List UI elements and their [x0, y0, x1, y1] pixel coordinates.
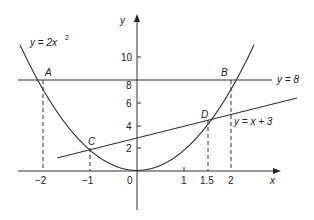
- x-tick-label: 2: [228, 175, 234, 186]
- y-axis-arrow-icon: [134, 14, 140, 22]
- label-y-equals-x-plus-3: y = x + 3: [233, 116, 273, 127]
- point-label-D: D: [201, 109, 208, 120]
- parabola-label: y = 2x: [29, 37, 58, 48]
- y-tick-label: 6: [126, 98, 132, 109]
- point-label-A: A: [44, 67, 52, 78]
- x-tick-label: 1.5: [200, 175, 214, 186]
- y-axis-label: x: [269, 175, 276, 186]
- y-tick-label: 8: [126, 80, 132, 91]
- label-y-equals-8: y = 8: [276, 74, 299, 85]
- x-tick-label: 0: [127, 175, 133, 186]
- x-tick-label: −1: [82, 175, 94, 186]
- x-axis-arrow-icon: [273, 168, 281, 174]
- line-y-equals-x-plus-3: [57, 98, 297, 158]
- x-tick-label: 1: [181, 175, 187, 186]
- x-axis-label: y: [119, 15, 126, 26]
- parabola-exponent: 2: [65, 34, 69, 41]
- y-tick-label: 4: [126, 121, 132, 132]
- point-label-B: B: [221, 67, 228, 78]
- x-tick-label: −2: [35, 175, 47, 186]
- y-tick-label: 2: [126, 143, 132, 154]
- point-label-C: C: [88, 136, 96, 147]
- graph-diagram: y x −2 −1 0 1 1.5 2 2 4 6 8 10 y = 8 y =…: [0, 0, 314, 220]
- y-tick-label: 10: [121, 52, 133, 63]
